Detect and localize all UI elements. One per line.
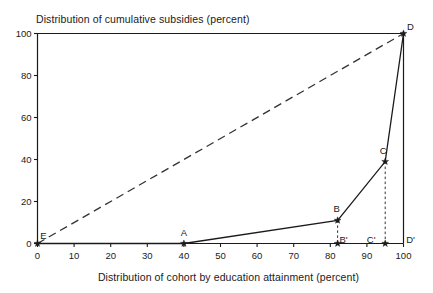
y-tick-label: 40	[21, 154, 32, 165]
point-marker-C-prime	[382, 240, 389, 247]
y-tick-label: 100	[16, 28, 32, 39]
y-tick-label: 80	[21, 70, 32, 81]
point-label-B-prime: B'	[340, 234, 348, 245]
chart-container: Distribution of cumulative subsidies (pe…	[0, 0, 433, 293]
lorenz-concentration-chart: 0204060801000102030405060708090100 EABCD…	[0, 0, 433, 293]
x-tick-label: 10	[69, 250, 80, 261]
x-tick-label: 50	[215, 250, 226, 261]
point-label-D-prime: D'	[406, 234, 415, 245]
x-tick-label: 100	[396, 250, 412, 261]
x-tick-label: 90	[362, 250, 373, 261]
x-tick-label: 80	[325, 250, 336, 261]
x-axis-title-wrap: Distribution of cohort by education atta…	[0, 271, 433, 283]
x-tick-label: 30	[142, 250, 153, 261]
x-tick-label: 60	[252, 250, 263, 261]
point-label-A: A	[181, 227, 188, 238]
x-tick-label: 40	[179, 250, 190, 261]
point-label-C: C	[380, 145, 387, 156]
x-tick-label: 0	[35, 250, 40, 261]
point-label-E: E	[40, 230, 46, 241]
y-tick-label: 60	[21, 112, 32, 123]
series-line-of-equality	[38, 34, 404, 244]
tick-label-layer: 0204060801000102030405060708090100	[16, 28, 412, 261]
x-tick-label: 20	[105, 250, 116, 261]
dashed-lines-layer	[38, 34, 404, 244]
point-label-C-prime: C'	[367, 234, 376, 245]
point-label-D: D	[407, 21, 414, 32]
annotation-label-layer: EABCDB'C'D'	[40, 21, 415, 245]
y-tick-label: 20	[21, 196, 32, 207]
x-tick-label: 70	[288, 250, 299, 261]
point-label-B: B	[333, 203, 339, 214]
x-axis-title: Distribution of cohort by education atta…	[98, 271, 359, 283]
y-tick-label: 0	[26, 238, 31, 249]
